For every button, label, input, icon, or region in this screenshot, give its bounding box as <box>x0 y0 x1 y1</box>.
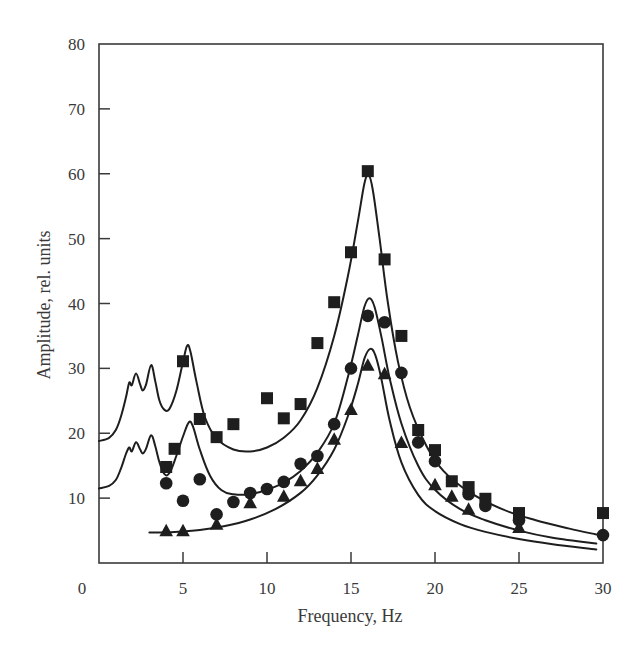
triangle-marker <box>210 517 224 530</box>
square-marker <box>227 418 239 430</box>
square-marker <box>261 392 273 404</box>
square-marker <box>311 337 323 349</box>
upper-fit-curve <box>99 175 596 535</box>
x-tick-label: 30 <box>595 579 612 598</box>
circle-marker <box>462 488 475 501</box>
square-marker <box>211 431 223 443</box>
square-marker <box>345 246 357 258</box>
circle-marker <box>412 436 425 449</box>
square-marker <box>169 443 181 455</box>
x-tick-label: 0 <box>78 579 87 598</box>
circle-marker <box>160 477 173 490</box>
y-axis-label: Amplitude, rel. units <box>34 231 54 380</box>
fit-curves <box>99 175 596 550</box>
triangle-marker <box>344 402 358 415</box>
triangle-marker <box>277 489 291 502</box>
circle-marker <box>395 367 408 380</box>
circle-marker <box>278 476 291 489</box>
plot-frame <box>99 44 603 563</box>
x-tick-label: 25 <box>511 579 528 598</box>
triangle-marker <box>159 524 173 537</box>
circle-marker <box>261 483 274 496</box>
triangle-marker <box>462 502 476 515</box>
y-tick-label: 30 <box>68 359 85 378</box>
y-tick-label: 40 <box>68 295 85 314</box>
circle-marker <box>345 362 358 375</box>
square-marker <box>160 461 172 473</box>
y-tick-label: 20 <box>68 424 85 443</box>
square-marker <box>194 413 206 425</box>
square-marker <box>446 475 458 487</box>
square-marker <box>295 398 307 410</box>
triangle-marker <box>176 524 190 537</box>
square-marker <box>412 424 424 436</box>
square-marker <box>379 253 391 265</box>
circle-marker <box>311 450 324 463</box>
triangle-marker <box>445 489 459 502</box>
square-marker <box>278 412 290 424</box>
x-tick-label: 20 <box>427 579 444 598</box>
circle-marker <box>194 473 207 486</box>
axes-box <box>99 44 603 563</box>
x-tick-label: 10 <box>259 579 276 598</box>
circle-marker <box>294 457 307 470</box>
circle-marker <box>597 529 610 542</box>
middle-fit-curve <box>99 298 596 543</box>
triangle-marker <box>243 496 257 509</box>
circle-marker <box>378 316 391 329</box>
x-axis-tick-labels: 051015202530 <box>78 579 612 598</box>
y-tick-label: 10 <box>68 489 85 508</box>
y-tick-label: 50 <box>68 230 85 249</box>
square-marker <box>429 444 441 456</box>
square-marker <box>597 507 609 519</box>
x-tick-label: 5 <box>179 579 188 598</box>
square-marker <box>177 355 189 367</box>
square-marker <box>395 330 407 342</box>
circle-marker <box>177 494 190 507</box>
circle-marker <box>429 455 442 468</box>
x-tick-label: 15 <box>343 579 360 598</box>
chart: 1020304050607080 051015202530 Frequency,… <box>0 0 642 649</box>
x-axis-label: Frequency, Hz <box>298 606 403 626</box>
circle-marker <box>328 418 341 431</box>
square-marker <box>328 296 340 308</box>
y-tick-label: 60 <box>68 165 85 184</box>
square-marker <box>362 165 374 177</box>
circle-marker <box>479 500 492 513</box>
circle-marker <box>227 496 240 509</box>
y-axis-tick-labels: 1020304050607080 <box>68 35 85 508</box>
circle-marker <box>362 310 375 323</box>
x-axis-ticks <box>183 552 519 563</box>
y-tick-label: 80 <box>68 35 85 54</box>
y-tick-label: 70 <box>68 100 85 119</box>
